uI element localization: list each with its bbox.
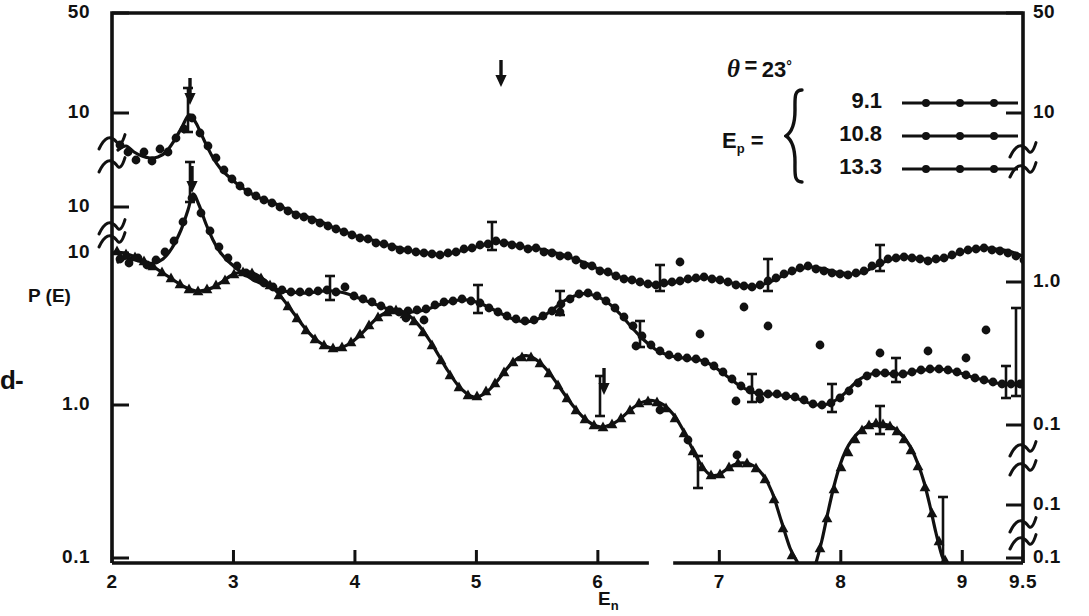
ep-subscript: p [737, 141, 745, 156]
x-tick-label: 9.5 [993, 571, 1053, 593]
y-right-tick-label: 0.1 [1033, 413, 1061, 435]
legend-theta-line: θ = 23° [727, 55, 792, 83]
legend-entry: 10.8 [808, 121, 1068, 151]
x-tick-label: 5 [446, 571, 506, 593]
legend-entry-label: 10.8 [808, 121, 882, 147]
y-axis-title-partial: d- [0, 365, 23, 396]
ep-equals: = [751, 128, 764, 153]
y-left-tick-label: 50 [0, 1, 90, 23]
series-13.3 [112, 246, 951, 573]
y-right-tick-label: 0.1 [1033, 493, 1061, 515]
y-axis-title: P (E) [28, 285, 71, 307]
x-tick-label: 2 [82, 571, 142, 593]
x-tick-label: 4 [325, 571, 385, 593]
y-left-tick-label: 10 [0, 195, 90, 217]
y-right-tick-label: 1.0 [1033, 270, 1061, 292]
curve-13.3-segment-2 [816, 424, 946, 563]
figure-root: 501010101.00.1 50101.00.10.10.1 23456789… [0, 0, 1089, 616]
y-left-tick-label: 0.1 [0, 546, 90, 568]
x-axis-title-main: E [598, 588, 611, 609]
x-tick-label: 7 [689, 571, 749, 593]
theta-value: 23 [762, 57, 786, 82]
y-right-tick-label: 50 [1033, 1, 1055, 23]
degree-sign: ° [786, 58, 792, 74]
x-axis-title-sub: n [611, 598, 619, 613]
legend-entry: 9.1 [808, 88, 1068, 118]
y-left-tick-label: 10 [0, 101, 90, 123]
theta-equals: = [744, 53, 757, 78]
legend-entry-label: 13.3 [808, 154, 882, 180]
legend-line-sample [900, 159, 1020, 179]
legend-line-sample [900, 93, 1020, 113]
axis-break-marks [99, 135, 1036, 549]
legend-entry: 13.3 [808, 154, 1068, 184]
x-tick-label: 9 [932, 571, 992, 593]
legend-brace-icon [784, 88, 806, 184]
y-right-tick-label: 0.1 [1033, 546, 1061, 568]
theta-symbol: θ [727, 55, 740, 82]
legend-line-sample [900, 126, 1020, 146]
x-tick-label: 8 [811, 571, 871, 593]
x-axis-title: En [598, 588, 619, 613]
y-left-tick-label: 10 [0, 241, 90, 263]
legend-entry-label: 9.1 [808, 88, 882, 114]
ep-symbol: E [722, 128, 737, 153]
y-left-tick-label: 1.0 [0, 393, 90, 415]
legend-ep-label: Ep = [722, 128, 764, 156]
x-tick-label: 3 [203, 571, 263, 593]
